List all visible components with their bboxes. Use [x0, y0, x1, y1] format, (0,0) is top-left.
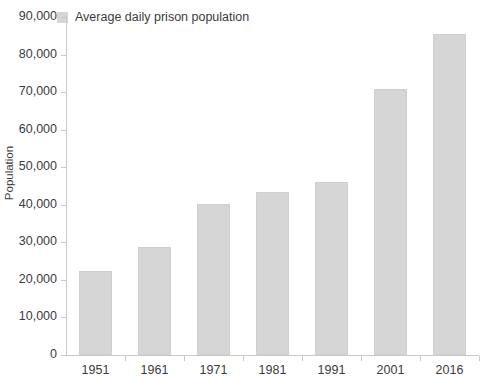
- x-axis-tick-label: 1981: [259, 363, 287, 377]
- chart-legend: Average daily prison population: [57, 9, 249, 25]
- x-axis-tick-mark: [302, 356, 303, 361]
- y-axis-tick-mark: [61, 55, 66, 56]
- y-axis-tick-mark: [61, 242, 66, 243]
- y-axis-tick-label: 30,000: [0, 234, 57, 248]
- y-axis-tick-label: 70,000: [0, 84, 57, 98]
- x-axis-tick-mark: [184, 356, 185, 361]
- bar[interactable]: [79, 271, 112, 355]
- y-axis-tick-mark: [61, 167, 66, 168]
- x-axis-tick-mark: [243, 356, 244, 361]
- x-axis-line: [66, 355, 479, 356]
- x-axis-tick-mark: [479, 356, 480, 361]
- y-axis-line: [66, 16, 67, 356]
- y-axis-tick-label: 80,000: [0, 47, 57, 61]
- x-axis-tick-label: 2016: [436, 363, 464, 377]
- y-axis-tick-mark: [61, 205, 66, 206]
- x-axis-tick-label: 1971: [200, 363, 228, 377]
- x-axis-tick-label: 1951: [82, 363, 110, 377]
- bar[interactable]: [197, 204, 230, 355]
- x-axis-tick-mark: [125, 356, 126, 361]
- legend-entry-label: Average daily prison population: [75, 11, 249, 24]
- y-axis-tick-mark: [61, 355, 66, 356]
- y-axis-tick-label: 50,000: [0, 159, 57, 173]
- x-axis-tick-mark: [361, 356, 362, 361]
- y-axis-tick-label: 10,000: [0, 309, 57, 323]
- bar[interactable]: [433, 34, 466, 355]
- y-axis-tick-label: 90,000: [0, 9, 57, 23]
- bar[interactable]: [256, 192, 289, 355]
- y-axis-tick-mark: [61, 317, 66, 318]
- bar[interactable]: [315, 182, 348, 355]
- bar[interactable]: [138, 247, 171, 355]
- bar-chart: Average daily prison population Populati…: [0, 0, 484, 383]
- y-axis-tick-label: 20,000: [0, 272, 57, 286]
- y-axis-tick-label: 60,000: [0, 122, 57, 136]
- y-axis-tick-label: 40,000: [0, 197, 57, 211]
- bar[interactable]: [374, 89, 407, 355]
- x-axis-tick-label: 2001: [377, 363, 405, 377]
- y-axis-tick-mark: [61, 130, 66, 131]
- y-axis-tick-mark: [61, 280, 66, 281]
- x-axis-tick-label: 1991: [318, 363, 346, 377]
- y-axis-tick-mark: [61, 92, 66, 93]
- x-axis-tick-label: 1961: [141, 363, 169, 377]
- y-axis-tick-mark: [61, 17, 66, 18]
- x-axis-tick-mark: [420, 356, 421, 361]
- y-axis-tick-label: 0: [0, 347, 57, 361]
